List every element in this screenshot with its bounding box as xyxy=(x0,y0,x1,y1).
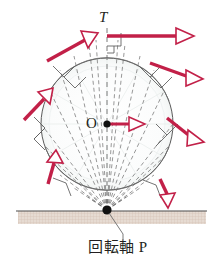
contact-point-P xyxy=(102,205,111,214)
spoke xyxy=(107,188,140,210)
label-rotation-axis-P: 回転軸 P xyxy=(88,240,148,255)
label-top-point-T: T xyxy=(99,10,107,25)
physics-figure: T O 回転軸 P xyxy=(0,0,224,267)
right-angle-marker-lower-left xyxy=(53,178,71,196)
figure-canvas xyxy=(0,0,224,267)
vector-v-top-T xyxy=(107,28,194,44)
spoke xyxy=(74,188,107,210)
right-angle-marker-T-inner xyxy=(107,46,114,53)
label-center-point-O: O xyxy=(86,116,97,131)
center-point-O xyxy=(103,120,110,127)
right-angle-marker-lower-right xyxy=(143,180,161,198)
vector-v-lower-right xyxy=(160,179,175,208)
